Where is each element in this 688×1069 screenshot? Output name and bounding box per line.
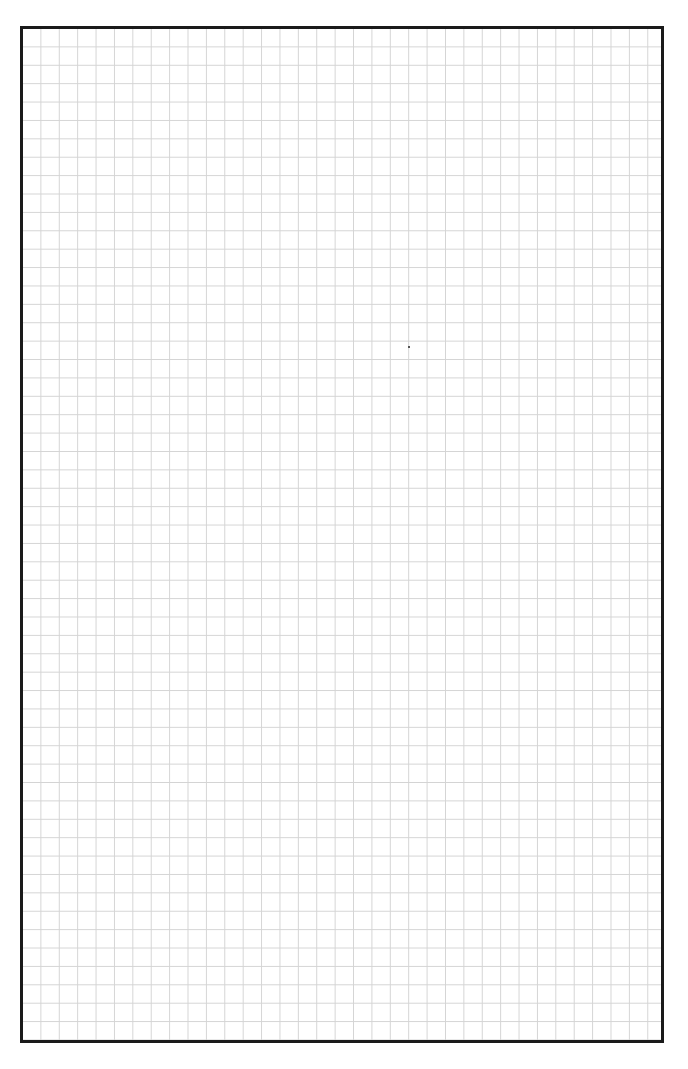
stray-mark [408,346,410,348]
grid-paper-sheet [20,26,664,1043]
